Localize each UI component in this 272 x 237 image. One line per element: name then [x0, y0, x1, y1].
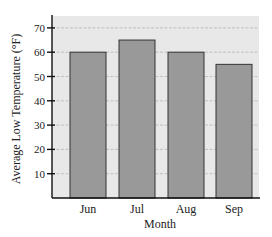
y-tick-label: 40	[34, 95, 46, 107]
bar-chart: 10203040506070 JunJulAugSep Month Averag…	[0, 0, 272, 237]
y-tick-label: 10	[34, 168, 46, 180]
y-tick-label: 70	[34, 22, 46, 34]
bar-jul	[119, 40, 155, 198]
x-tick-label: Aug	[176, 202, 197, 216]
y-tick-label: 20	[34, 143, 46, 155]
x-axis-label: Month	[144, 217, 176, 231]
x-tick-label: Sep	[225, 202, 243, 216]
bar-aug	[168, 52, 204, 198]
y-tick-label: 50	[34, 71, 46, 83]
x-tick-label: Jul	[130, 202, 145, 216]
x-tick-labels: JunJulAugSep	[80, 202, 243, 216]
bar-sep	[216, 64, 252, 198]
bar-jun	[70, 52, 106, 198]
y-tick-label: 30	[34, 119, 46, 131]
y-axis-label: Average Low Temperature (°F)	[9, 34, 23, 184]
y-tick-label: 60	[34, 46, 46, 58]
x-tick-label: Jun	[80, 202, 97, 216]
